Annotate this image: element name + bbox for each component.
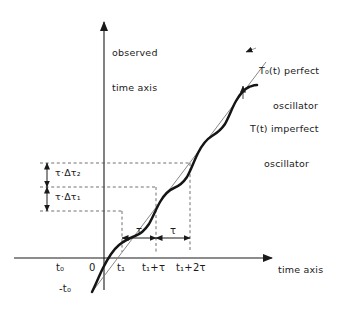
origin-label: 0 [89,262,96,274]
deviation-label-delta-tau-2: τ·Δτ₂ [55,167,81,179]
imperfect-oscillator-label-line2: oscillator [250,158,319,170]
imperfect-oscillator-label: T(t) imperfect oscillator [250,100,319,192]
tau-interval-label-2: τ [170,225,176,237]
x-axis-label: time axis [278,264,323,276]
tick-label-t1-plus-2tau: t₁+2τ [176,262,206,274]
leader-line-group [246,48,256,52]
tick-label-t1-plus-tau: t₁+τ [142,262,165,274]
negative-intercept-label: -t₀ [59,283,71,295]
y-axis-label: observed time axis [112,24,158,116]
perfect-oscillator-label-line1: T₀(t) perfect [259,65,319,77]
tick-label-t0: t₀ [56,262,64,274]
oscillator-timing-diagram: observed time axis time axis T₀(t) perfe… [0,0,353,322]
tick-label-t1: t₁ [117,262,125,274]
deviation-label-delta-tau-1: τ·Δτ₁ [55,191,81,203]
imperfect-oscillator-curve [92,85,257,292]
tau-interval-label-1: τ [136,225,142,237]
y-axis-label-line2: time axis [112,82,158,94]
leader-line-perfect [246,48,256,52]
y-axis-label-line1: observed [112,47,158,59]
imperfect-oscillator-label-line1: T(t) imperfect [250,123,319,135]
